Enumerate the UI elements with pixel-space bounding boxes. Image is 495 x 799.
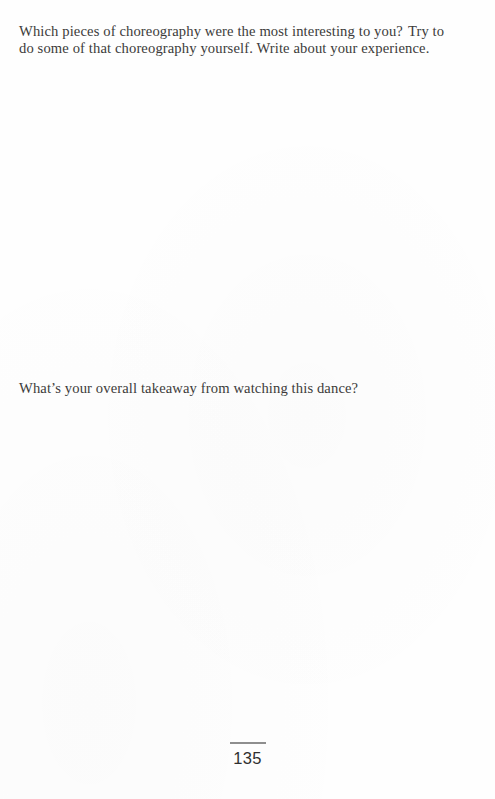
page-footer: 135: [0, 742, 495, 768]
document-page: Which pieces of choreography were the mo…: [0, 0, 495, 799]
answer-space-takeaway[interactable]: [19, 392, 461, 732]
footer-rule: [230, 742, 266, 744]
answer-space-choreography[interactable]: [19, 48, 461, 353]
page-number: 135: [0, 749, 495, 768]
prompt-choreography-sentence-one: Which pieces of choreography were the mo…: [19, 23, 403, 39]
